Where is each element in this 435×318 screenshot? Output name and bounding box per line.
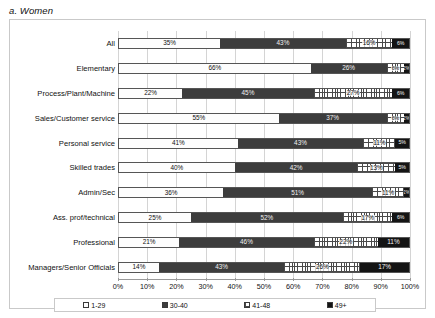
segment-value-label: 6% [397, 41, 405, 46]
bar-segment: 6% [392, 212, 410, 223]
segment-value-label: 37% [326, 115, 339, 121]
segment-value-label: 11% [373, 140, 386, 146]
bar-segment: 17% [360, 262, 410, 273]
x-tick-mark [381, 278, 382, 281]
segment-value-label: 55% [192, 115, 205, 121]
segment-value-label: 22% [339, 239, 353, 245]
segment-value-label: 6% [391, 66, 400, 71]
gridline [410, 31, 411, 280]
bar-segment: 52% [191, 212, 343, 223]
segment-value-label: 51% [291, 190, 304, 196]
bar-segment: 43% [220, 38, 346, 49]
x-tick-mark [176, 278, 177, 281]
x-tick-mark [147, 278, 148, 281]
bar-row: 40%42%13%5% [118, 162, 410, 173]
legend-item[interactable]: 41-48 [244, 302, 270, 309]
bar-row: 66%26%6%2% [118, 63, 410, 74]
legend-item[interactable]: 49+ [327, 302, 347, 309]
bar-segment: 45% [182, 88, 313, 99]
segment-value-label: 11% [381, 190, 394, 196]
bar-segment: 37% [279, 113, 387, 124]
legend-item[interactable]: 1-29 [83, 302, 105, 309]
bar-segment: 35% [118, 38, 220, 49]
legend-label: 30-40 [170, 302, 188, 309]
plot-area: All35%43%16%6%Elementary66%26%6%2%Proces… [118, 31, 410, 280]
bar-segment: 26% [311, 63, 387, 74]
chart-plot-frame: All35%43%16%6%Elementary66%26%6%2%Proces… [9, 19, 426, 309]
legend-swatch-icon [162, 302, 168, 308]
category-label: Ass. prof/technical [0, 212, 115, 223]
legend-label: 1-29 [91, 302, 105, 309]
bar-segment: 11% [372, 187, 404, 198]
x-tick-mark [352, 278, 353, 281]
segment-value-label: 6% [397, 215, 405, 220]
bar-segment: 27% [314, 88, 393, 99]
x-tick-label: 70% [315, 282, 329, 291]
bar-row: 36%51%11%2% [118, 187, 410, 198]
x-tick-label: 90% [374, 282, 388, 291]
x-tick-mark [206, 278, 207, 281]
x-tick-label: 50% [257, 282, 271, 291]
legend-label: 49+ [335, 302, 347, 309]
segment-value-label: 41% [172, 140, 185, 146]
legend-item[interactable]: 30-40 [162, 302, 188, 309]
category-label: Professional [0, 237, 115, 248]
bar-segment: 22% [314, 237, 378, 248]
bar-segment: 25% [118, 212, 191, 223]
category-label: Personal service [0, 138, 115, 149]
category-label: All [0, 38, 115, 49]
bar-segment: 2% [404, 113, 410, 124]
x-tick-label: 80% [344, 282, 358, 291]
bar-segment: 16% [346, 38, 393, 49]
segment-value-label: 14% [133, 264, 146, 270]
x-tick-label: 100% [401, 282, 419, 291]
segment-value-label: 27% [346, 90, 360, 96]
segment-value-label: 17% [378, 264, 391, 270]
bar-row: 35%43%16%6% [118, 38, 410, 49]
x-tick-mark [410, 278, 411, 281]
category-label: Elementary [0, 63, 115, 74]
x-axis-tick-labels: 0%10%20%30%40%50%60%70%80%90%100% [118, 282, 410, 294]
bar-segment: 5% [395, 162, 410, 173]
bar-row: 25%52%17%6% [118, 212, 410, 223]
segment-value-label: 5% [398, 165, 406, 170]
chart-legend: 1-2930-4041-4849+ [54, 298, 376, 312]
category-label: Process/Plant/Machine [0, 88, 115, 99]
segment-value-label: 16% [362, 40, 376, 46]
bar-segment: 46% [179, 237, 313, 248]
x-tick-label: 0% [113, 282, 123, 291]
bar-segment: 42% [235, 162, 358, 173]
segment-value-label: 2% [404, 66, 410, 71]
legend-swatch-icon [327, 302, 333, 308]
bar-segment: 2% [404, 63, 410, 74]
segment-value-label: 25% [149, 215, 162, 221]
bar-segment: 51% [223, 187, 372, 198]
segment-value-label: 45% [242, 90, 255, 96]
bar-row: 21%46%22%11% [118, 237, 410, 248]
segment-value-label: 43% [294, 140, 307, 146]
bar-segment: 21% [118, 237, 179, 248]
x-tick-label: 40% [228, 282, 242, 291]
x-tick-label: 10% [140, 282, 154, 291]
segment-value-label: 17% [361, 215, 375, 221]
x-tick-label: 60% [286, 282, 300, 291]
category-label: Admin/Sec [0, 187, 115, 198]
bar-segment: 6% [387, 63, 405, 74]
segment-value-label: 5% [398, 140, 406, 145]
figure-caption: a. Women [9, 5, 53, 16]
chart-figure: a. Women All35%43%16%6%Elementary66%26%6… [0, 0, 435, 318]
category-label: Skilled trades [0, 162, 115, 173]
segment-value-label: 21% [143, 239, 156, 245]
bar-segment: 22% [118, 88, 182, 99]
segment-value-label: 42% [290, 165, 303, 171]
segment-value-label: 6% [391, 116, 400, 121]
bar-segment: 66% [118, 63, 311, 74]
segment-value-label: 13% [370, 165, 384, 171]
bar-row: 55%37%6%2% [118, 113, 410, 124]
legend-label: 41-48 [252, 302, 270, 309]
bar-segment: 41% [118, 138, 238, 149]
segment-value-label: 43% [215, 264, 228, 270]
bar-segment: 2% [404, 187, 410, 198]
legend-swatch-icon [244, 302, 250, 308]
segment-value-label: 6% [397, 91, 405, 96]
